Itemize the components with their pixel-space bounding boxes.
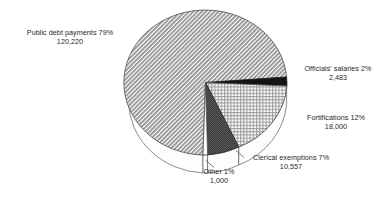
label-other-line2: 1,000 bbox=[193, 176, 245, 185]
label-other-line1: Other 1% bbox=[193, 167, 245, 176]
label-clerical-line2: 10,557 bbox=[243, 162, 339, 171]
label-clerical-exemptions: Clerical exemptions 7% 10,557 bbox=[243, 153, 339, 172]
label-public-debt-payments: Public debt payments 79% 120,220 bbox=[14, 28, 126, 47]
label-public-debt-line1: Public debt payments 79% bbox=[14, 28, 126, 37]
label-officials-line2: 2,483 bbox=[296, 73, 380, 82]
label-fortifications-line1: Fortifications 12% bbox=[294, 113, 378, 122]
label-officials-salaries: Officials' salaries 2% 2,483 bbox=[296, 64, 380, 83]
label-clerical-line1: Clerical exemptions 7% bbox=[243, 153, 339, 162]
label-officials-line1: Officials' salaries 2% bbox=[296, 64, 380, 73]
label-fortifications-line2: 18,000 bbox=[294, 122, 378, 131]
label-other: Other 1% 1,000 bbox=[193, 167, 245, 186]
label-fortifications: Fortifications 12% 18,000 bbox=[294, 113, 378, 132]
label-public-debt-line2: 120,220 bbox=[14, 37, 126, 46]
pie-chart-figure: Public debt payments 79% 120,220 Officia… bbox=[0, 0, 385, 201]
